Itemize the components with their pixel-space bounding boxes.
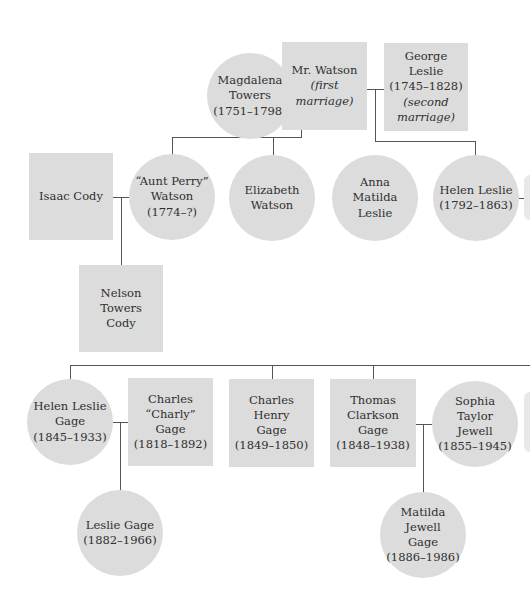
person-helen-leslie: Helen Leslie(1792–1863) [433,155,519,241]
descent-line-leslie [375,89,376,141]
person-thomas-clarkson-gage: ThomasClarkson Gage(1848–1938) [330,379,416,467]
offscreen-node-fragment [524,175,530,220]
person-sophia-taylor-jewell: Sophia TaylorJewell(1855–1945) [432,381,518,467]
person-aunt-perry-watson: “Aunt Perry”Watson(1774–?) [129,154,215,240]
descent-line-cody [121,197,122,265]
person-charles-charly-gage: Charles“Charly” Gage(1818–1892) [128,378,213,466]
person-leslie-gage: Leslie Gage(1882–1966) [77,490,163,576]
person-elizabeth-watson: ElizabethWatson [229,155,315,241]
person-magdalena-towers: MagdalenaTowers(1751–1798) [207,53,293,139]
person-matilda-jewell-gage: Matilda JewellGage(1886–1986) [380,492,466,578]
drop-helen-gage [70,365,71,379]
offscreen-node-fragment [524,392,530,452]
marriage-line-thomas-sophia [416,424,432,425]
drop-helen-leslie [475,141,476,155]
person-charles-henry-gage: Charles HenryGage(1849–1850) [229,379,314,467]
descent-line-matilda-gage [423,424,424,497]
sibling-line-leslie-children [375,141,476,142]
drop-thomas [373,365,374,379]
drop-elizabeth [273,137,274,155]
person-isaac-cody: Isaac Cody [29,153,113,240]
drop-aunt-perry [172,137,173,155]
drop-charles-henry [272,365,273,379]
person-anna-matilda-leslie: Anna MatildaLeslie [332,155,418,241]
person-helen-leslie-gage: Helen LeslieGage(1845–1933) [27,379,113,465]
person-nelson-towers-cody: Nelson TowersCody [79,265,163,352]
sibling-line-gage-children [70,365,530,366]
person-mr-watson: Mr. Watson(first marriage) [282,42,367,130]
descent-line-leslie-gage [120,422,121,492]
person-george-leslie: George Leslie(1745–1828)(secondmarriage) [384,43,468,131]
